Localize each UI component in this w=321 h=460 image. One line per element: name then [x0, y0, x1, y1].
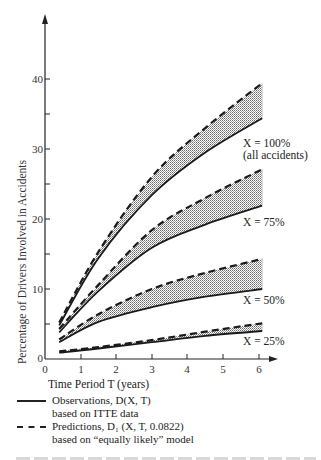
legend-observations-sublabel: based on ITTE data: [52, 407, 151, 420]
x-tick-3: 3: [149, 363, 155, 375]
x-axis-arrow-icon: [269, 356, 278, 362]
figure-caption-truncated: [16, 455, 316, 460]
solid-line-icon: [16, 394, 46, 407]
y-tick-40: 40: [32, 73, 44, 85]
x-tick-1: 1: [78, 363, 84, 375]
band-75: [59, 169, 262, 332]
y-tick-20: 20: [32, 213, 44, 225]
y-tick-30: 30: [32, 143, 44, 155]
y-axis-arrow-icon: [42, 14, 48, 24]
annotation-x50: X = 50%: [243, 294, 285, 306]
annotation-x100-sub: (all accidents): [243, 149, 308, 162]
legend-item-observations: Observations, D(X, T) based on ITTE data: [16, 394, 316, 420]
legend: Observations, D(X, T) based on ITTE data…: [16, 394, 316, 446]
x-tick-6: 6: [256, 363, 262, 375]
legend-predictions-sublabel: based on “equally likely” model: [52, 433, 194, 446]
legend-observations-label: Observations, D(X, T): [52, 394, 151, 407]
y-axis: 40 30 20 10 0 Percentage of Drivers Invo…: [16, 14, 50, 364]
y-tick-10: 10: [32, 283, 44, 295]
chart: 40 30 20 10 0 Percentage of Drivers Invo…: [0, 0, 321, 460]
annotation-x75: X = 75%: [243, 216, 285, 228]
legend-item-predictions: Predictions, D₁ (X, T, 0.0822) based on …: [16, 420, 316, 446]
dashed-line-icon: [16, 420, 46, 433]
x-tick-4: 4: [184, 363, 190, 375]
x-axis: 0 1 2 3 4 5 6 Time Period T (years): [42, 354, 278, 391]
shaded-bands: [59, 83, 262, 353]
x-tick-2: 2: [113, 363, 119, 375]
annotation-x100: X = 100%: [243, 137, 291, 149]
x-tick-5: 5: [220, 363, 226, 375]
y-axis-label: Percentage of Drivers Involved in Accide…: [16, 159, 29, 364]
x-axis-label: Time Period T (years): [48, 378, 149, 391]
annotation-x25: X = 25%: [243, 335, 285, 347]
legend-predictions-label: Predictions, D₁ (X, T, 0.0822): [52, 420, 194, 433]
x-tick-0: 0: [42, 363, 48, 375]
prediction-curve: [59, 323, 262, 351]
observation-curve: [59, 331, 262, 353]
